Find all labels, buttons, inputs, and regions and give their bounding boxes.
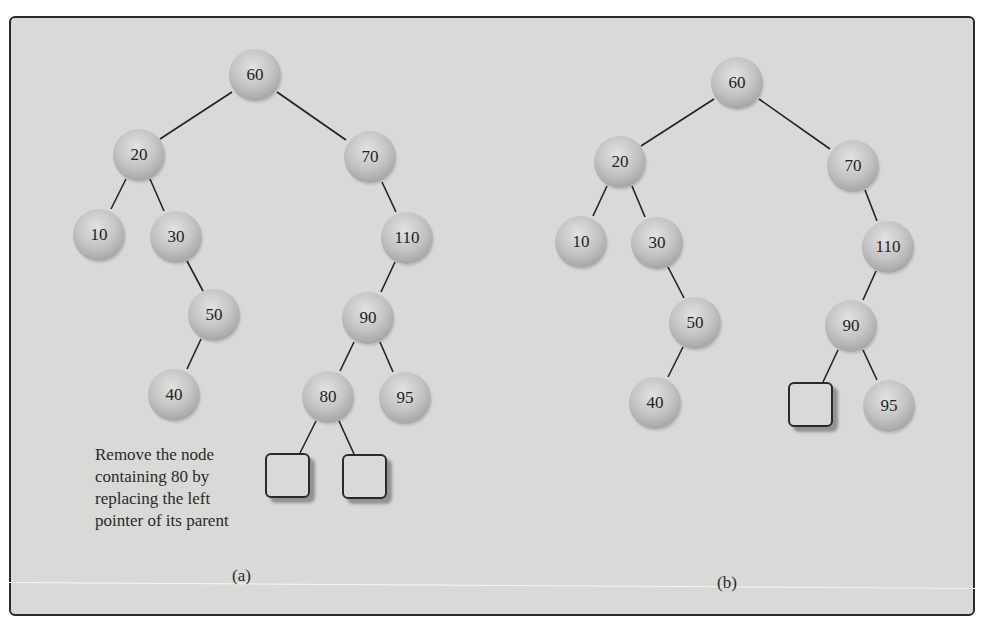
diagram-stage: 60207010301105090408095 6020701030110509… <box>0 0 984 625</box>
tree-node-20: 20 <box>594 136 646 188</box>
tree-node-30: 30 <box>631 217 683 269</box>
tree-node-95: 95 <box>863 380 915 432</box>
caption-a: Remove the node containing 80 by replaci… <box>95 444 229 532</box>
edge-b20-b10 <box>593 186 607 216</box>
null-pointer-box <box>342 454 387 499</box>
edge-b110-b90 <box>863 271 876 300</box>
edge-b60-b70 <box>759 99 830 149</box>
edge-a90-a95 <box>380 342 393 372</box>
caption-line: containing 80 by <box>95 466 229 488</box>
edge-a20-a30 <box>150 179 164 211</box>
caption-line: replacing the left <box>95 488 229 510</box>
caption-line: pointer of its parent <box>95 510 229 532</box>
edge-b50-b40 <box>668 347 683 377</box>
edge-a80-right <box>339 421 354 454</box>
tree-node-30: 30 <box>150 211 202 263</box>
edge-b30-b50 <box>668 267 684 298</box>
edge-b70-b110 <box>865 190 877 221</box>
tree-node-60: 60 <box>229 49 281 101</box>
edge-a90-a80 <box>340 342 354 371</box>
panel-label-b: (b) <box>717 573 737 593</box>
tree-node-50: 50 <box>188 289 240 341</box>
caption-line: Remove the node <box>95 444 229 466</box>
edge-a50-a40 <box>187 339 201 369</box>
edge-b60-b20 <box>641 99 714 146</box>
tree-node-50: 50 <box>669 297 721 349</box>
tree-node-60: 60 <box>711 57 763 109</box>
tree-node-80: 80 <box>302 371 354 423</box>
edge-a60-a70 <box>277 92 346 140</box>
edge-b90-left <box>823 350 838 382</box>
null-pointer-box <box>265 453 310 498</box>
tree-node-70: 70 <box>827 140 879 192</box>
tree-node-40: 40 <box>629 377 681 429</box>
tree-node-10: 10 <box>73 209 125 261</box>
tree-node-110: 110 <box>381 212 433 264</box>
edge-a30-a50 <box>187 261 203 291</box>
edge-a80-left <box>300 421 316 453</box>
edge-a70-a110 <box>382 182 396 212</box>
edge-b90-b95 <box>863 350 877 380</box>
tree-node-95: 95 <box>379 372 431 424</box>
tree-node-90: 90 <box>825 300 877 352</box>
tree-node-10: 10 <box>555 216 607 268</box>
null-pointer-box <box>788 382 833 427</box>
tree-node-20: 20 <box>113 129 165 181</box>
edge-a20-a10 <box>111 179 126 209</box>
tree-node-40: 40 <box>148 369 200 421</box>
edge-a60-a20 <box>160 92 232 139</box>
edge-b20-b30 <box>632 186 645 217</box>
tree-node-110: 110 <box>862 221 914 273</box>
tree-node-90: 90 <box>342 292 394 344</box>
tree-node-70: 70 <box>344 131 396 183</box>
edge-a110-a90 <box>381 262 395 292</box>
panel-label-a: (a) <box>232 566 251 586</box>
